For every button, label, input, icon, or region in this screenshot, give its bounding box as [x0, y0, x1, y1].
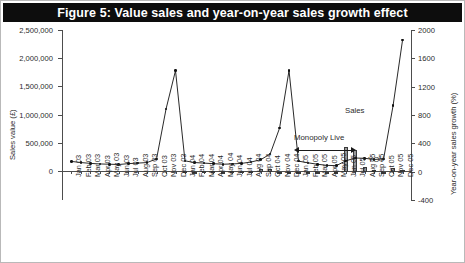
x-axis-tick-label: Feb 05	[311, 154, 320, 177]
x-axis-tick-label: Sep 04	[264, 154, 273, 177]
figure-title-bar: Figure 5: Value sales and year-on-year s…	[3, 3, 462, 22]
x-axis-tick-label: May 04	[226, 153, 235, 177]
x-axis-tick-label: Aug 03	[141, 154, 150, 177]
sales-data-point	[392, 104, 395, 107]
x-axis-tick-label: Jul 04	[245, 157, 254, 177]
x-axis-tick-label: Jun 05	[349, 155, 358, 177]
x-axis-tick-label: May 03	[112, 153, 121, 177]
x-axis-tick-label: Nov 05	[396, 154, 405, 177]
arrow-right-head-icon	[351, 147, 356, 153]
x-axis-tick-label: Dec 03	[179, 154, 188, 177]
x-axis-tick-label: Apr 05	[330, 155, 339, 177]
x-axis-tick-label: Apr 03	[103, 155, 112, 177]
y-axis-left-tick-label: 1,500,000	[0, 82, 53, 91]
x-axis-tick-label: Dec 05	[406, 154, 415, 177]
sales-data-point	[165, 108, 168, 111]
y-axis-right-tick-label: 800	[418, 111, 431, 120]
y-axis-right-tick-label: 400	[418, 139, 431, 148]
x-axis-tick-label: May 05	[339, 153, 348, 177]
sales-data-point	[278, 127, 281, 130]
x-axis-tick-label: Mar 03	[93, 154, 102, 177]
y-axis-left-title: Sales value (£)	[8, 109, 17, 160]
x-axis-tick-label: Apr 04	[216, 155, 225, 177]
sales-data-point	[174, 69, 177, 72]
x-axis-tick-label: Jan 04	[188, 155, 197, 177]
page-title: Figure 5: Value sales and year-on-year s…	[57, 6, 407, 20]
sales-data-point	[401, 39, 404, 42]
y-axis-right-tick-label: 1200	[418, 83, 435, 92]
x-axis-tick-label: Mar 04	[207, 154, 216, 177]
y-axis-right-tick-label: 2000	[418, 26, 435, 35]
y-axis-right-tick-label: -400	[418, 196, 433, 205]
x-axis-tick-label: Feb 04	[197, 154, 206, 177]
y-axis-left-tick-label: 0	[0, 167, 53, 176]
x-axis-tick-label: Mar 05	[320, 154, 329, 177]
y-tick-right	[411, 200, 415, 201]
annotation-monopoly-live: Monopoly Live	[294, 133, 344, 142]
y-axis-left-tick-label: 2,000,000	[0, 54, 53, 63]
x-axis-tick-label: Jun 04	[235, 155, 244, 177]
annotation-sales: Sales	[345, 106, 365, 115]
x-axis-tick-label: Sep 05	[377, 154, 386, 177]
x-axis-tick-label: Dec 04	[292, 154, 301, 177]
sales-data-point	[70, 160, 73, 163]
arrow-shaft	[298, 150, 352, 151]
y-axis-left-tick-label: 2,500,000	[0, 26, 53, 35]
x-axis-tick-label: Jan 05	[301, 155, 310, 177]
x-axis-tick-label: Nov 03	[169, 154, 178, 177]
x-axis-tick-label: Oct 05	[387, 155, 396, 177]
x-axis-tick-label: Jan 03	[74, 155, 83, 177]
x-axis-tick-label: Aug 05	[368, 154, 377, 177]
figure-container: Figure 5: Value sales and year-on-year s…	[0, 0, 465, 263]
x-axis-tick-label: Aug 04	[254, 154, 263, 177]
y-axis-right-tick-label: 1600	[418, 54, 435, 63]
x-axis-tick-label: Sep 03	[150, 154, 159, 177]
x-axis-tick-label: Oct 03	[160, 155, 169, 177]
x-axis-tick-label: Oct 04	[273, 155, 282, 177]
sales-data-point	[288, 69, 291, 72]
y-axis-right-title: Year-on-year sales growth (%)	[449, 93, 458, 195]
y-axis-right-tick-label: 0	[418, 168, 422, 177]
x-axis-tick-label: Nov 04	[283, 154, 292, 177]
x-axis-tick-label: Feb 03	[84, 154, 93, 177]
x-axis-tick-label: Jul 03	[131, 157, 140, 177]
x-axis-tick-label: Jul 05	[358, 157, 367, 177]
x-axis-tick-label: Jun 03	[122, 155, 131, 177]
